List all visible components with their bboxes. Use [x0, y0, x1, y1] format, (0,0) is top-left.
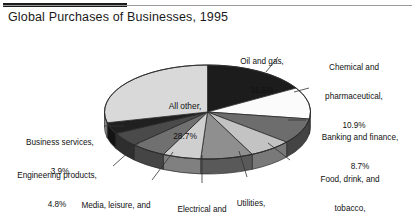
- slice-label-all-other-line1: All other,: [145, 101, 225, 111]
- label-oil-and-gas: Oil and gas, 16.5%: [218, 38, 306, 115]
- chart-page: Global Purchases of Businesses, 1995: [0, 0, 415, 224]
- label-business-line1: Business services,: [14, 138, 106, 148]
- label-engineering-line2: 4.8%: [2, 200, 112, 210]
- label-chemical-line2: pharmaceutical,: [302, 92, 406, 102]
- label-banking-line1: Banking and finance,: [308, 133, 412, 143]
- label-oil-and-gas-line1: Oil and gas,: [218, 57, 306, 67]
- slice-label-all-other: All other, 28.7%: [145, 81, 225, 161]
- label-food-line1: Food, drink, and: [296, 175, 404, 185]
- label-food-drink-and-tobacco: Food, drink, and tobacco, 6.8%: [296, 156, 404, 224]
- label-oil-and-gas-line2: 16.5%: [218, 86, 306, 96]
- label-chemical-line1: Chemical and: [302, 63, 406, 73]
- label-food-line2: tobacco,: [296, 204, 404, 214]
- label-business-line2: 3.9%: [14, 167, 106, 177]
- label-business-services: Business services, 3.9%: [14, 119, 106, 196]
- slice-label-all-other-line2: 28.7%: [145, 131, 225, 141]
